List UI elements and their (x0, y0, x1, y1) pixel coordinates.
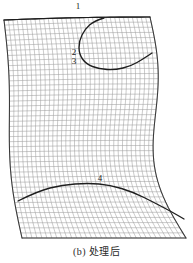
structured-mesh-figure (0, 0, 193, 240)
figure-label-4: 4 (92, 174, 108, 183)
figure-caption: (b) 处理后 (0, 243, 193, 258)
figure-label-1: 1 (70, 2, 86, 11)
figure-container: 1 2 3 4 (b) 处理后 (0, 0, 193, 263)
figure-label-3: 3 (66, 57, 82, 66)
